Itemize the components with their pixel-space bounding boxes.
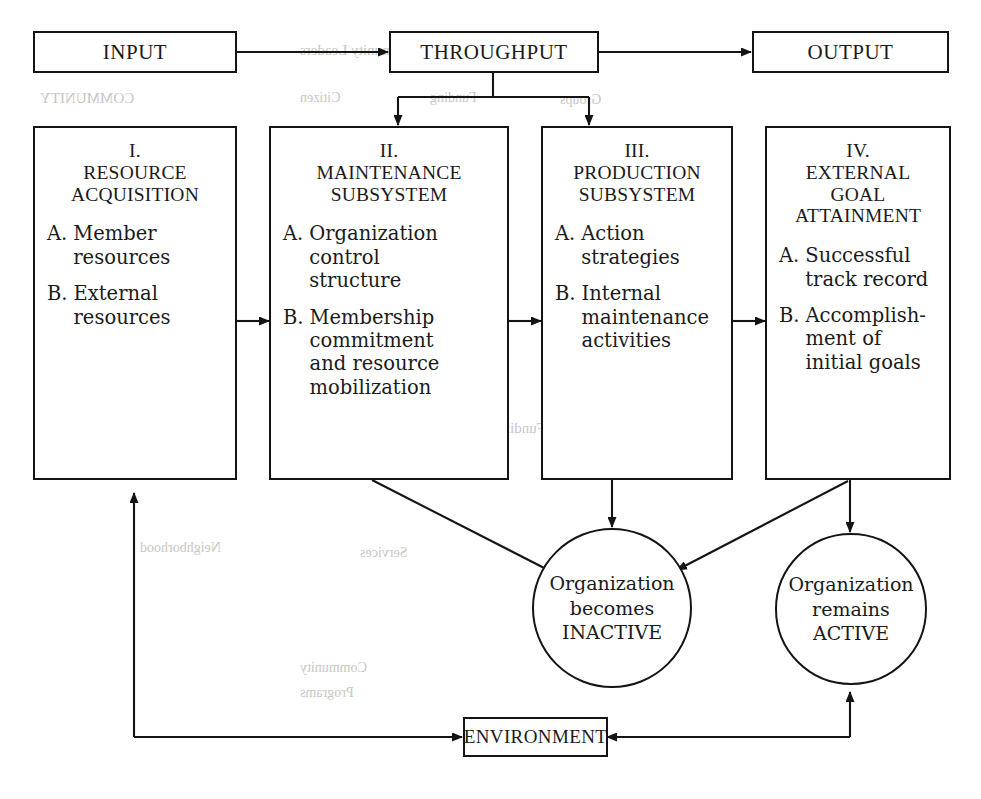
list-item-line: Accomplish- (806, 304, 940, 327)
list-item-text: Actionstrategies (581, 222, 722, 269)
list-item-text: Memberresources (73, 222, 226, 269)
column-name-line: ACQUISITION (71, 184, 199, 206)
node-output-label: OUTPUT (808, 42, 894, 63)
node-throughput-label: THROUGHPUT (420, 42, 567, 63)
node-column-2[interactable]: II.MAINTENANCESUBSYSTEMA.Organizationcon… (269, 126, 509, 480)
column-item-list: A.OrganizationcontrolstructureB.Membersh… (271, 222, 507, 412)
list-item-line: Membership (310, 306, 498, 329)
list-item-line: Action (581, 222, 722, 245)
list-item-line: ment of (806, 327, 940, 350)
node-column-3[interactable]: III.PRODUCTIONSUBSYSTEMA.Actionstrategie… (541, 126, 733, 480)
column-name-line: PRODUCTION (573, 162, 701, 184)
list-item-line: Internal (582, 282, 722, 305)
list-item-text: Externalresources (74, 282, 226, 329)
node-outcome-inactive[interactable]: OrganizationbecomesINACTIVE (532, 528, 692, 688)
list-item-line: structure (309, 269, 498, 292)
list-item-line: maintenance (582, 306, 722, 329)
column-name-line: EXTERNAL (795, 162, 921, 184)
list-item-marker: A. (47, 222, 73, 269)
column-name-line: MAINTENANCE (316, 162, 461, 184)
outcome-label-line: INACTIVE (549, 620, 674, 645)
column-roman-numeral: II. (316, 140, 461, 162)
list-item: A.Actionstrategies (555, 222, 722, 269)
column-name-line: GOAL (795, 184, 921, 206)
column-roman-numeral: IV. (795, 140, 921, 162)
node-column-1[interactable]: I.RESOURCEACQUISITIONA.MemberresourcesB.… (33, 126, 237, 480)
list-item-line: mobilization (310, 376, 498, 399)
arrow-col2-to-inactive (372, 480, 552, 572)
column-name-line: SUBSYSTEM (573, 184, 701, 206)
column-title: II.MAINTENANCESUBSYSTEM (316, 140, 461, 205)
list-item-line: initial goals (806, 351, 940, 374)
list-item-marker: B. (47, 282, 74, 329)
list-item-line: External (74, 282, 226, 305)
list-item-text: Internalmaintenanceactivities (582, 282, 722, 352)
list-item: B.Membershipcommitmentand resourcemobili… (283, 306, 498, 400)
node-input-label: INPUT (103, 42, 167, 63)
node-column-4[interactable]: IV.EXTERNALGOALATTAINMENTA.Successfultra… (765, 126, 951, 480)
list-item-text: Successfultrack record (805, 244, 940, 291)
list-item-line: control (309, 246, 498, 269)
column-title: III.PRODUCTIONSUBSYSTEM (573, 140, 701, 205)
node-output[interactable]: OUTPUT (752, 31, 949, 73)
list-item-line: track record (805, 268, 940, 291)
list-item-marker: B. (283, 306, 310, 400)
list-item-marker: B. (555, 282, 582, 352)
list-item-text: Organizationcontrolstructure (309, 222, 498, 292)
list-item-line: resources (74, 306, 226, 329)
column-name-line: RESOURCE (71, 162, 199, 184)
node-throughput[interactable]: THROUGHPUT (389, 31, 599, 73)
list-item-marker: B. (779, 304, 806, 374)
column-item-list: A.Successfultrack recordB.Accomplish-men… (767, 244, 949, 387)
list-item-line: commitment (310, 329, 498, 352)
node-input[interactable]: INPUT (33, 31, 237, 73)
list-item-line: activities (582, 329, 722, 352)
outcome-label-line: ACTIVE (788, 621, 913, 646)
column-item-list: A.MemberresourcesB.Externalresources (35, 222, 235, 342)
list-item-text: Membershipcommitmentand resourcemobiliza… (310, 306, 498, 400)
node-environment-label: ENVIRONMENT (464, 726, 608, 748)
list-item-text: Accomplish-ment ofinitial goals (806, 304, 940, 374)
list-item: A.Successfultrack record (779, 244, 940, 291)
outcome-label-line: Organization (549, 571, 674, 596)
node-environment[interactable]: ENVIRONMENT (463, 717, 608, 757)
list-item-line: Organization (309, 222, 498, 245)
list-item-marker: A. (555, 222, 581, 269)
outcome-label: OrganizationbecomesINACTIVE (549, 571, 674, 645)
list-item-line: resources (73, 246, 226, 269)
outcome-label-line: becomes (549, 596, 674, 621)
list-item: B.Externalresources (47, 282, 226, 329)
column-name-line: ATTAINMENT (795, 205, 921, 227)
list-item: A.Memberresources (47, 222, 226, 269)
list-item-marker: A. (779, 244, 805, 291)
outcome-label-line: Organization (788, 572, 913, 597)
node-outcome-active[interactable]: OrganizationremainsACTIVE (775, 533, 927, 685)
column-title: I.RESOURCEACQUISITION (71, 140, 199, 205)
list-item-marker: A. (283, 222, 309, 292)
list-item: B.Accomplish-ment ofinitial goals (779, 304, 940, 374)
list-item-line: and resource (310, 352, 498, 375)
outcome-label: OrganizationremainsACTIVE (788, 572, 913, 646)
column-item-list: A.ActionstrategiesB.Internalmaintenancea… (543, 222, 731, 365)
list-item: B.Internalmaintenanceactivities (555, 282, 722, 352)
diagram-canvas: Community LeadersCOMMUNITYCitizenFunding… (0, 0, 981, 799)
column-name-line: SUBSYSTEM (316, 184, 461, 206)
column-title: IV.EXTERNALGOALATTAINMENT (795, 140, 921, 227)
list-item-line: Successful (805, 244, 940, 267)
outcome-label-line: remains (788, 597, 913, 622)
column-roman-numeral: I. (71, 140, 199, 162)
list-item-line: Member (73, 222, 226, 245)
column-roman-numeral: III. (573, 140, 701, 162)
list-item: A.Organizationcontrolstructure (283, 222, 498, 292)
list-item-line: strategies (581, 246, 722, 269)
